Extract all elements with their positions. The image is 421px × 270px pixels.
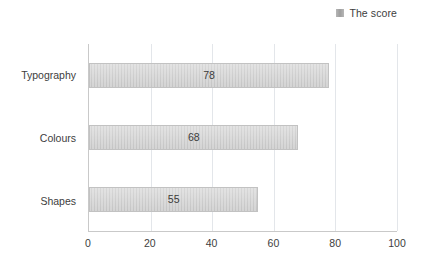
gridline — [397, 44, 398, 231]
chart-legend: The score — [336, 6, 397, 20]
bar-value-label: 78 — [203, 70, 215, 81]
x-tick-label: 40 — [206, 236, 218, 250]
bar-value-label: 55 — [168, 194, 180, 205]
x-tick-label: 100 — [388, 236, 406, 250]
legend-square-icon — [336, 9, 344, 17]
bar-colours[interactable]: 68 — [89, 125, 298, 150]
x-tick-label: 0 — [85, 236, 91, 250]
bar-row: 78 — [89, 44, 397, 106]
legend-entry-label: The score — [349, 7, 397, 19]
x-tick-label: 60 — [268, 236, 280, 250]
bar-chart: The score 786855 TypographyColoursShapes… — [0, 0, 421, 270]
bar-row: 55 — [89, 169, 397, 231]
x-tick-label: 20 — [144, 236, 156, 250]
bar-row: 68 — [89, 106, 397, 168]
bars-group: 786855 — [89, 44, 397, 231]
category-label-shapes: Shapes — [0, 169, 82, 232]
plot-area: 786855 — [88, 44, 397, 232]
category-label-typography: Typography — [0, 44, 82, 107]
bar-value-label: 68 — [188, 132, 200, 143]
bar-shapes[interactable]: 55 — [89, 187, 258, 212]
category-label-colours: Colours — [0, 107, 82, 170]
x-tick-label: 80 — [329, 236, 341, 250]
category-axis-labels: TypographyColoursShapes — [0, 44, 82, 232]
value-axis-labels: 020406080100 — [88, 236, 397, 254]
bar-typography[interactable]: 78 — [89, 63, 329, 88]
